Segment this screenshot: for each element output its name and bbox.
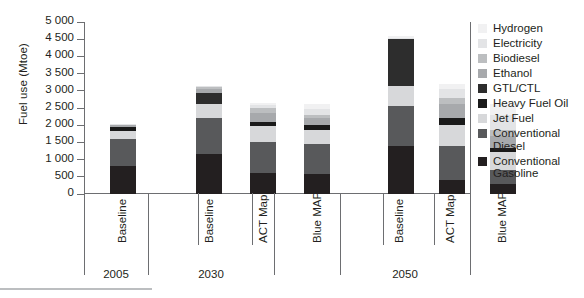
- x-axis-group-label: 2030: [150, 268, 272, 280]
- bottom-rule: [0, 288, 152, 290]
- x-axis-category-label: ACT Map: [257, 195, 269, 243]
- y-axis-tick-label: 3 000: [45, 83, 74, 95]
- axis-separator: [84, 193, 85, 275]
- bar-segment: [388, 106, 414, 146]
- bar-segment: [304, 144, 330, 174]
- y-axis-tick-label: 4 000: [45, 48, 74, 60]
- bar-segment: [388, 39, 414, 85]
- legend-label: Ethanol: [493, 67, 532, 80]
- y-axis-tick-label: 2 500: [45, 100, 74, 112]
- y-axis-tick-mark: [77, 159, 84, 160]
- x-axis-category-label: Baseline: [393, 199, 405, 243]
- legend-item[interactable]: Ethanol: [478, 67, 584, 80]
- bar-stack[interactable]: [110, 124, 136, 195]
- legend-swatch: [478, 114, 487, 123]
- legend-swatch: [478, 99, 487, 108]
- legend-label: GTL/CTL: [493, 82, 540, 95]
- bar-segment: [388, 146, 414, 194]
- bar-segment: [196, 154, 222, 194]
- bar-segment: [439, 104, 465, 118]
- legend-label: Hydrogen: [493, 22, 543, 35]
- y-axis-tick-label: 3 500: [45, 66, 74, 78]
- y-axis-tick-mark: [77, 73, 84, 74]
- bar-segment: [250, 142, 276, 173]
- legend-item[interactable]: Heavy Fuel Oil: [478, 97, 584, 110]
- chart-legend: HydrogenElectricityBiodieselEthanolGTL/C…: [478, 22, 584, 182]
- legend-item[interactable]: Jet Fuel: [478, 112, 584, 125]
- bar-segment: [110, 139, 136, 167]
- bar-segment: [250, 113, 276, 122]
- legend-swatch: [478, 39, 487, 48]
- bar-stack[interactable]: [388, 36, 414, 194]
- y-axis-ticks: 5 0004 5004 0003 5003 0002 5002 0001 500…: [0, 22, 84, 194]
- legend-label: Conventional Diesel: [493, 127, 560, 152]
- bar-stack[interactable]: [250, 103, 276, 194]
- bar-segment: [439, 180, 465, 194]
- legend-swatch: [478, 54, 487, 63]
- bar-segment: [110, 131, 136, 139]
- bar-segment: [196, 118, 222, 154]
- bar-segment: [388, 86, 414, 107]
- axis-separator: [470, 22, 471, 275]
- bar-segment: [439, 89, 465, 98]
- y-axis-tick-label: 4 500: [45, 31, 74, 43]
- chart-figure: Fuel use (Mtoe) 5 0004 5004 0003 5003 00…: [0, 0, 584, 298]
- y-axis-tick-mark: [77, 22, 84, 23]
- y-axis-tick-label: 2 000: [45, 117, 74, 129]
- legend-swatch: [478, 69, 487, 78]
- axis-separator: [148, 193, 149, 275]
- y-axis-tick-mark: [77, 90, 84, 91]
- x-axis-tick-mark: [434, 193, 435, 245]
- x-axis-tick-mark: [383, 193, 384, 245]
- y-axis-tick-mark: [77, 56, 84, 57]
- bar-segment: [250, 126, 276, 142]
- bar-stack[interactable]: [304, 104, 330, 194]
- y-axis-tick-mark: [77, 125, 84, 126]
- bar-segment: [196, 104, 222, 118]
- y-axis-tick-label: 500: [55, 169, 74, 181]
- bar-segment: [439, 125, 465, 146]
- axis-separator: [274, 193, 275, 275]
- legend-item[interactable]: Conventional Diesel: [478, 127, 584, 152]
- legend-label: Conventional Gasoline: [493, 155, 560, 180]
- legend-label: Electricity: [493, 37, 542, 50]
- x-axis-tick-mark: [252, 193, 253, 245]
- legend-item[interactable]: Conventional Gasoline: [478, 155, 584, 180]
- y-axis-tick-label: 1 500: [45, 134, 74, 146]
- x-axis-group-label: 2050: [342, 268, 468, 280]
- legend-label: Jet Fuel: [493, 112, 534, 125]
- plot-area: [84, 22, 470, 194]
- x-axis-category-label: Baseline: [116, 199, 128, 243]
- x-axis-group-label: 2005: [86, 268, 146, 280]
- x-axis-category-label: Blue MAP: [496, 192, 508, 243]
- y-axis-tick-mark: [77, 176, 84, 177]
- x-axis-category-label: Baseline: [203, 199, 215, 243]
- bar-segment: [439, 146, 465, 180]
- legend-label: Heavy Fuel Oil: [493, 97, 568, 110]
- bar-stack[interactable]: [196, 86, 222, 194]
- y-axis-tick-mark: [77, 39, 84, 40]
- y-axis-tick-label: 5 000: [45, 14, 74, 26]
- bar-stack[interactable]: [439, 84, 465, 194]
- legend-item[interactable]: Biodiesel: [478, 52, 584, 65]
- y-axis-tick-label: 1 000: [45, 152, 74, 164]
- bar-segment: [110, 166, 136, 194]
- bar-segment: [196, 93, 222, 104]
- legend-item[interactable]: Hydrogen: [478, 22, 584, 35]
- legend-label: Biodiesel: [493, 52, 540, 65]
- bar-segment: [304, 130, 330, 144]
- x-axis-tick-mark: [198, 193, 199, 245]
- x-axis-category-label: ACT Map: [444, 195, 456, 243]
- y-axis-tick-mark: [77, 108, 84, 109]
- axis-separator: [340, 193, 341, 275]
- legend-item[interactable]: GTL/CTL: [478, 82, 584, 95]
- legend-item[interactable]: Electricity: [478, 37, 584, 50]
- bar-segment: [304, 118, 330, 125]
- legend-swatch: [478, 129, 487, 138]
- y-axis-tick-mark: [77, 142, 84, 143]
- legend-swatch: [478, 157, 487, 166]
- x-axis-category-label: Blue MAP: [311, 192, 323, 243]
- y-axis-tick-label: 0: [68, 186, 74, 198]
- y-axis-tick-mark: [77, 194, 84, 195]
- bar-segment: [250, 173, 276, 194]
